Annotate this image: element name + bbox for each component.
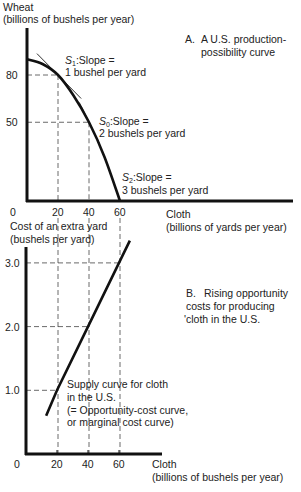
supply-annotation-line1: Supply curve for cloth [67, 378, 168, 390]
panel-b-xlabel-line1: Cloth [152, 458, 177, 470]
panel-b-label: B. [186, 287, 196, 299]
y-tick-label: 3.0 [5, 257, 20, 269]
supply-annotation-line4: or marginal cost curve) [67, 416, 174, 428]
panel-b-guide-lines [26, 263, 119, 390]
panel-a-title-line2: possibility curve [201, 46, 275, 58]
panel-a-origin-label: 0 [10, 206, 16, 218]
annotation-s2-text: 3 bushels per yard [122, 184, 209, 196]
panel-b-title-line2: costs for producing [186, 300, 275, 312]
panel-a-ylabel-line1: Wheat [3, 1, 33, 13]
x-tick-label: 20 [51, 458, 63, 470]
y-tick-label: 80 [6, 69, 18, 81]
panel-b-origin-label: 0 [14, 458, 20, 470]
panel-b-ylabel-line2: (bushels per yard) [10, 233, 95, 245]
annotation-s2-heading: S2:Slope = [122, 171, 172, 184]
y-tick-label: 2.0 [5, 321, 20, 333]
s2-slope-label: :Slope = [133, 171, 172, 183]
panel-b-title-line1: Rising opportunity [204, 287, 289, 299]
panel-b-y-ticks: 3.02.01.0 [5, 257, 20, 396]
panel-a-ylabel-line2: (billions of bushels per year) [3, 13, 134, 25]
s0-symbol: S [99, 115, 106, 127]
panel-a-label: A. [185, 33, 195, 45]
panel-b-ylabel-line1: Cost of an extra yard [10, 220, 108, 232]
panel-b-title-line3: 'cloth in the U.S. [184, 313, 260, 325]
y-tick-label: 1.0 [5, 384, 20, 396]
panel-a-xlabel-line2: (billions of yards per year) [166, 221, 287, 233]
x-tick-label: 60 [114, 206, 126, 218]
supply-annotation-line3: (= Opportunity-cost curve, [67, 404, 188, 416]
y-tick-label: 50 [6, 116, 18, 128]
x-tick-label: 40 [83, 206, 95, 218]
panel-b: Cost of an extra yard (bushels per yard)… [5, 220, 289, 483]
s1-symbol: S [65, 54, 72, 66]
panel-a-xlabel-line1: Cloth [166, 208, 191, 220]
s2-symbol: S [122, 171, 129, 183]
panel-b-xlabel-line2: (billions of bushels per year) [152, 471, 283, 483]
x-tick-label: 60 [113, 458, 125, 470]
s1-slope-label: :Slope = [76, 54, 115, 66]
annotation-s1-text: 1 bushel per yard [65, 66, 146, 78]
figure: Wheat (billions of bushels per year) A. … [0, 0, 301, 492]
x-tick-label: 20 [52, 206, 64, 218]
s0-slope-label: :Slope = [110, 115, 149, 127]
panel-a-y-ticks: 8050 [6, 69, 18, 128]
panel-a-title-line1: A U.S. production- [201, 33, 287, 45]
supply-annotation-line2: in the U.S. [67, 391, 116, 403]
panel-a-x-ticks: 204060 [52, 206, 126, 218]
annotation-s0-text: 2 bushels per yard [99, 127, 186, 139]
x-tick-label: 40 [82, 458, 94, 470]
